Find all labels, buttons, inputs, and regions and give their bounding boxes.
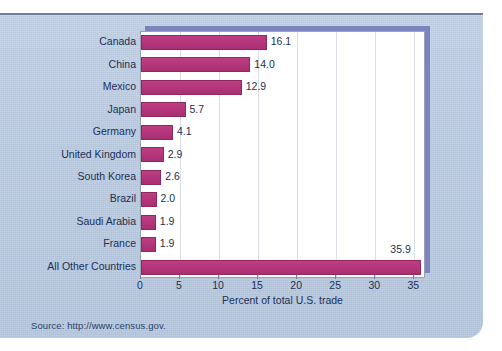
value-label: 2.6 <box>165 170 180 182</box>
value-label: 2.9 <box>168 148 183 160</box>
bar <box>141 215 156 230</box>
figure-container: CanadaChinaMexicoJapanGermanyUnited King… <box>0 0 502 351</box>
bar-row <box>141 212 426 234</box>
category-label: Canada <box>6 35 136 47</box>
category-label: Brazil <box>6 192 136 204</box>
category-label: France <box>6 237 136 249</box>
value-label: 14.0 <box>254 58 274 70</box>
bar-row <box>141 144 426 166</box>
x-axis-title: Percent of total U.S. trade <box>140 294 425 306</box>
category-label: United Kingdom <box>6 148 136 160</box>
bar-row <box>141 167 426 189</box>
x-tick-label: 10 <box>212 279 224 291</box>
category-label: Japan <box>6 103 136 115</box>
category-label: Germany <box>6 125 136 137</box>
bar <box>141 125 173 140</box>
x-axis-ticks: 05101520253035 <box>140 279 425 295</box>
value-label: 35.9 <box>390 243 410 255</box>
x-tick-label: 30 <box>368 279 380 291</box>
bar-row <box>141 54 426 76</box>
bar-row <box>141 257 426 279</box>
bar-row <box>141 77 426 99</box>
bar <box>141 192 157 207</box>
value-label: 1.9 <box>160 237 175 249</box>
bar <box>141 147 164 162</box>
bar <box>141 80 242 95</box>
category-label: China <box>6 58 136 70</box>
bar <box>141 35 267 50</box>
value-label: 1.9 <box>160 215 175 227</box>
value-label: 2.0 <box>161 192 176 204</box>
category-label: Saudi Arabia <box>6 215 136 227</box>
x-tick-label: 20 <box>290 279 302 291</box>
value-label: 5.7 <box>190 103 205 115</box>
x-tick-label: 0 <box>137 279 143 291</box>
x-tick-label: 15 <box>251 279 263 291</box>
x-tick-label: 5 <box>176 279 182 291</box>
bar-row <box>141 99 426 121</box>
bar-row <box>141 234 426 256</box>
bar-chart: CanadaChinaMexicoJapanGermanyUnited King… <box>0 0 502 351</box>
bar <box>141 57 250 72</box>
value-label: 16.1 <box>271 35 291 47</box>
x-tick-label: 25 <box>329 279 341 291</box>
category-axis-labels: CanadaChinaMexicoJapanGermanyUnited King… <box>4 31 136 278</box>
bar <box>141 260 421 275</box>
category-label: Mexico <box>6 80 136 92</box>
bar <box>141 102 186 117</box>
bar <box>141 237 156 252</box>
source-note: Source: http://www.census.gov. <box>31 320 166 331</box>
category-label: South Korea <box>6 170 136 182</box>
value-label: 4.1 <box>177 125 192 137</box>
bar-row <box>141 189 426 211</box>
value-label: 12.9 <box>246 80 266 92</box>
plot-area <box>140 31 425 278</box>
x-tick-label: 35 <box>407 279 419 291</box>
category-label: All Other Countries <box>6 260 136 272</box>
bar <box>141 170 161 185</box>
